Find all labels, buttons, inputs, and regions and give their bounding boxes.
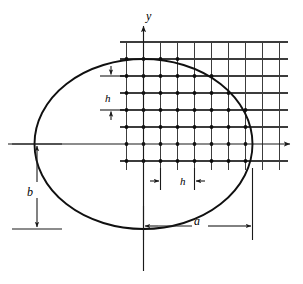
- h-horizontal-dimension: [150, 168, 205, 190]
- a-dimension: [144, 168, 253, 240]
- semi-minor-axis-label: b: [27, 186, 33, 198]
- y-axis-label: y: [146, 10, 151, 22]
- grid-spacing-vertical-label: h: [105, 93, 111, 104]
- grid-spacing-horizontal-label: h: [180, 176, 186, 187]
- semi-major-axis-label: a: [194, 215, 200, 227]
- mesh-vertical-lines: [127, 42, 280, 170]
- ellipse-mesh-diagram: [0, 0, 303, 284]
- coordinate-axes: [8, 26, 290, 271]
- finite-difference-mesh: [120, 42, 288, 170]
- b-dimension: [12, 144, 62, 229]
- figure-container: y b a h h: [0, 0, 303, 284]
